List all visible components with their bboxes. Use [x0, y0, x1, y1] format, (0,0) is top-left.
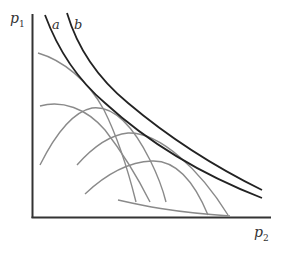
gray-curve-1 — [38, 53, 136, 202]
curve-a-label: a — [52, 17, 60, 32]
x-axis-label-subscript: 2 — [263, 233, 269, 243]
x-axis-label: p2 — [254, 224, 269, 243]
gray-curve-2 — [40, 104, 150, 202]
y-axis-label: p1 — [10, 10, 25, 29]
gray-curve-4 — [77, 133, 228, 215]
diagram-canvas — [0, 0, 285, 255]
curve-a — [45, 15, 262, 198]
curve-b — [67, 13, 262, 190]
curve-b-label: b — [74, 17, 82, 32]
y-axis-label-subscript: 1 — [19, 19, 25, 29]
x-axis-label-text: p — [254, 224, 263, 240]
gray-curve-5 — [85, 161, 208, 215]
gray-curve-3 — [40, 108, 166, 202]
gray-curve-6 — [118, 200, 230, 216]
diagram: p1 p2 a b — [0, 0, 285, 255]
gray-curves — [38, 53, 230, 216]
y-axis-label-text: p — [10, 10, 19, 26]
